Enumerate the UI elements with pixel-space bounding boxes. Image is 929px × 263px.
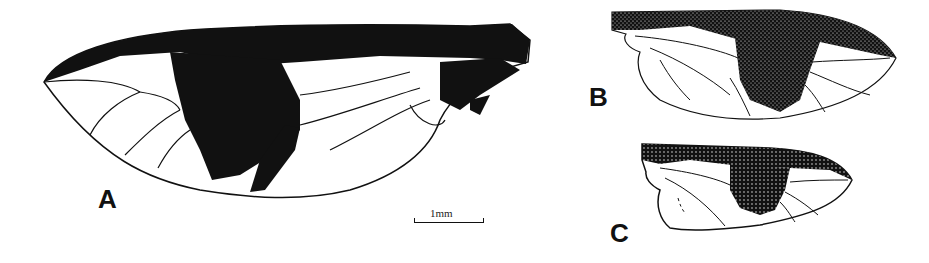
- wing-c-illustration: [590, 130, 890, 263]
- scale-bar: 1mm: [414, 215, 484, 223]
- wing-b-panel: B: [580, 0, 929, 140]
- wing-a-panel: A 1mm: [0, 0, 560, 263]
- wing-a-illustration: [0, 0, 560, 263]
- wing-c-panel: C: [590, 130, 890, 263]
- wing-b-illustration: [580, 0, 929, 140]
- panel-label-c: C: [610, 220, 629, 246]
- panel-label-b: B: [589, 84, 608, 110]
- scale-bar-label: 1mm: [430, 207, 453, 219]
- panel-label-a: A: [98, 186, 117, 212]
